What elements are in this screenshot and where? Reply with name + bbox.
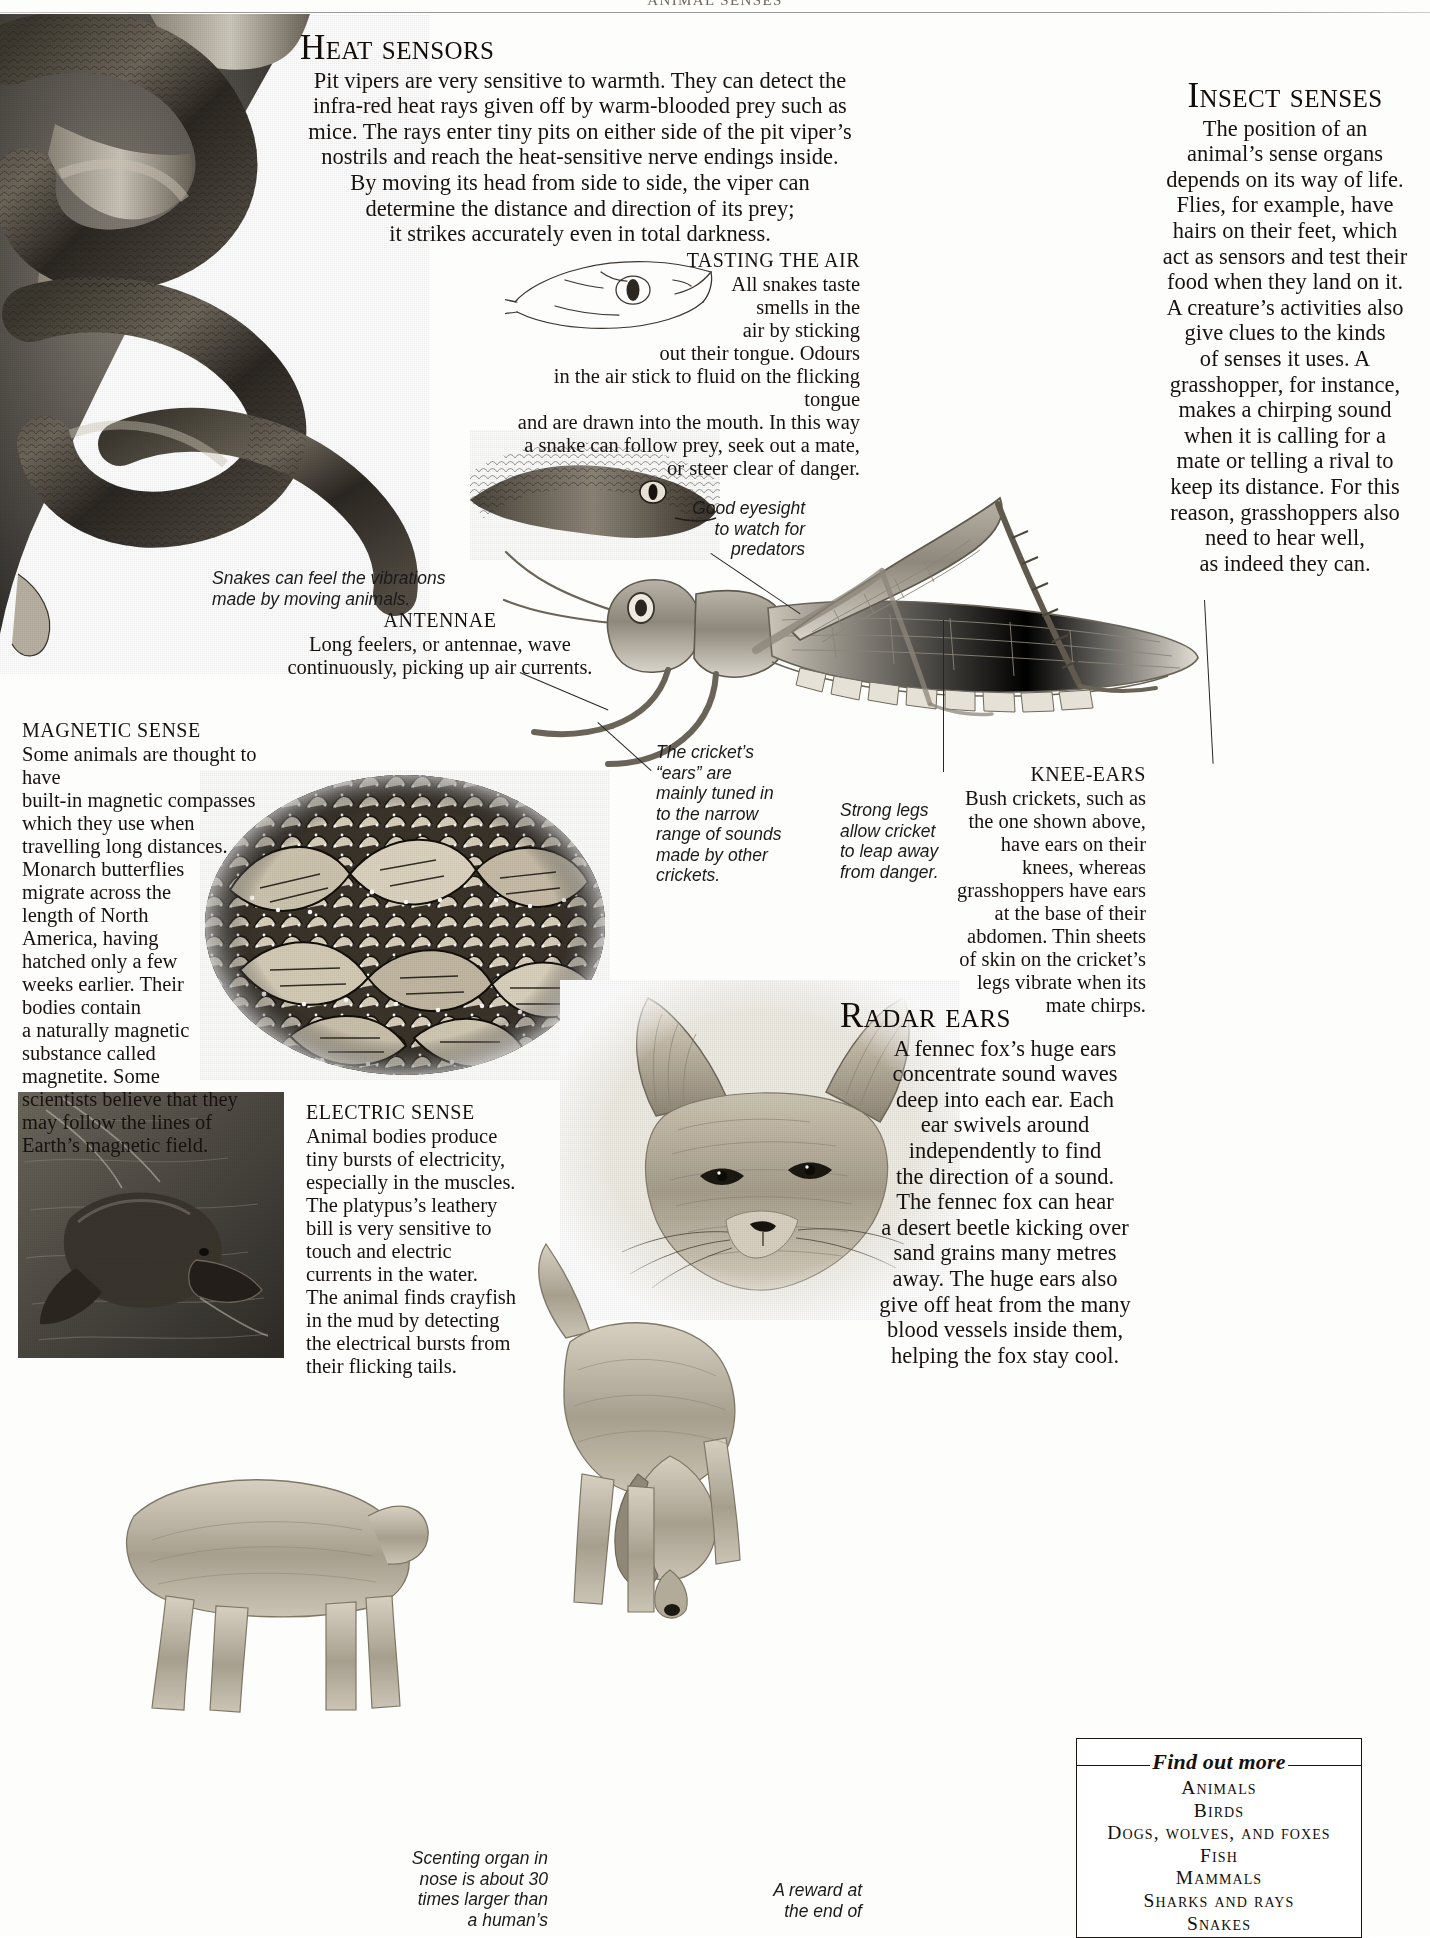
heat-sensors-body: Pit vipers are very sensitive to warmth.… — [300, 68, 860, 247]
callout-good-eyesight: Good eyesight to watch for predators — [640, 498, 805, 560]
find-out-more-item-sharks-and-rays[interactable]: Sharks and rays — [1077, 1890, 1361, 1913]
find-out-more-item-birds[interactable]: Birds — [1077, 1800, 1361, 1823]
callout-scenting-organ: Scenting organ in nose is about 30 times… — [388, 1848, 548, 1930]
find-out-more-item-dogs-wolves-and-foxes[interactable]: Dogs, wolves, and foxes — [1077, 1822, 1361, 1845]
find-out-more-item-fish[interactable]: Fish — [1077, 1845, 1361, 1868]
section-electric-sense: ELECTRIC SENSE Animal bodies produce tin… — [306, 1100, 536, 1378]
leader-line-strong-legs — [943, 620, 944, 772]
section-radar-ears: Radar ears A fennec fox’s huge ears conc… — [840, 998, 1170, 1368]
callout-reward: A reward at the end of — [730, 1880, 862, 1921]
heat-sensors-title: Heat sensors — [300, 30, 860, 66]
header-rule — [0, 12, 1430, 13]
antennae-body: Long feelers, or antennae, wave continuo… — [270, 633, 610, 679]
find-out-more-box: Find out more Animals Birds Dogs, wolves… — [1076, 1738, 1362, 1938]
electric-sense-title: ELECTRIC SENSE — [306, 1100, 536, 1124]
tasting-the-air-body: All snakes taste smells in the air by st… — [505, 273, 860, 480]
electric-sense-body: Animal bodies produce tiny bursts of ele… — [306, 1125, 536, 1378]
section-insect-senses: Insect senses The position of an animal’… — [1140, 78, 1430, 576]
callout-snake-vibrations: Snakes can feel the vibrations made by m… — [212, 568, 482, 609]
radar-ears-body: A fennec fox’s huge ears concentrate sou… — [840, 1036, 1170, 1369]
knee-ears-title: KNEE-EARS — [950, 762, 1146, 786]
insect-senses-body: The position of an animal’s sense organs… — [1140, 116, 1430, 577]
bloodhound-illustration-right — [520, 1230, 770, 1630]
antennae-title: ANTENNAE — [270, 608, 610, 632]
section-magnetic-sense: MAGNETIC SENSE Some animals are thought … — [22, 718, 282, 1157]
find-out-more-item-snakes[interactable]: Snakes — [1077, 1913, 1361, 1936]
magnetic-sense-title: MAGNETIC SENSE — [22, 718, 282, 742]
insect-senses-title: Insect senses — [1140, 78, 1430, 114]
knee-ears-body: Bush crickets, such as the one shown abo… — [950, 787, 1146, 1017]
leader-line-knee-ears — [1204, 600, 1214, 764]
radar-ears-title: Radar ears — [840, 998, 1170, 1034]
find-out-more-title-wrap: Find out more — [1077, 1739, 1361, 1777]
find-out-more-title: Find out more — [1077, 1749, 1361, 1775]
running-head: ANIMAL SENSES — [0, 0, 1430, 9]
section-knee-ears: KNEE-EARS Bush crickets, such as the one… — [950, 762, 1146, 1017]
find-out-more-item-animals[interactable]: Animals — [1077, 1777, 1361, 1800]
find-out-more-item-mammals[interactable]: Mammals — [1077, 1867, 1361, 1890]
tasting-the-air-title: TASTING THE AIR — [505, 248, 860, 272]
callout-cricket-ears: The cricket’s “ears” are mainly tuned in… — [656, 742, 816, 886]
magnetic-sense-body: Some animals are thought to have built-i… — [22, 743, 282, 1157]
section-tasting-the-air: TASTING THE AIR All snakes taste smells … — [505, 248, 860, 480]
bloodhound-illustration-left — [100, 1420, 430, 1720]
section-antennae: ANTENNAE Long feelers, or antennae, wave… — [270, 608, 610, 679]
section-heat-sensors: Heat sensors Pit vipers are very sensiti… — [300, 30, 860, 247]
